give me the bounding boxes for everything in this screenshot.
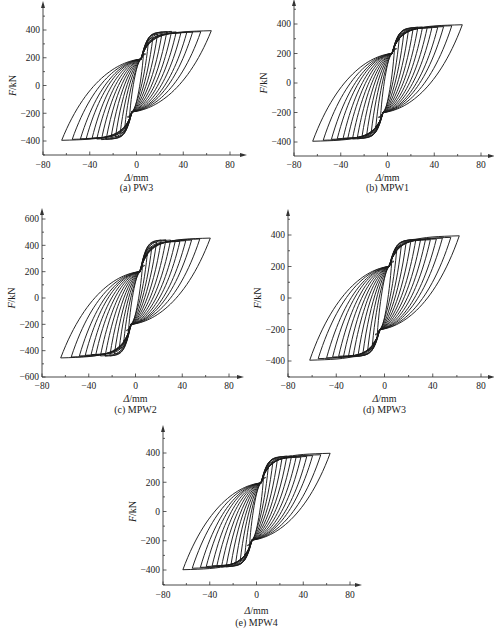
y-axis-unit: /kN	[252, 287, 263, 302]
y-axis-title: F/kN	[7, 75, 18, 97]
y-tick-label: 400	[271, 230, 286, 240]
x-tick-label: −40	[202, 590, 217, 600]
hysteresis-loop	[123, 255, 147, 342]
hysteresis-loop	[244, 468, 268, 556]
x-tick-label: 0	[254, 590, 259, 600]
y-tick-label: 0	[155, 507, 160, 517]
subplot-caption: (d) MPW3	[363, 404, 406, 416]
y-axis-arrow-icon	[40, 208, 44, 215]
y-tick-label: −400	[271, 137, 291, 147]
x-tick-label: 0	[382, 381, 387, 391]
hysteresis-figure: −80−4004080−400−2000200400Δ/mmF/kN(a) PW…	[0, 0, 494, 637]
x-tick-label: 80	[225, 160, 235, 170]
y-tick-label: −200	[271, 108, 291, 118]
y-tick-label: 200	[26, 53, 41, 63]
y-axis-arrow-icon	[286, 209, 290, 216]
hysteresis-loop	[333, 239, 437, 357]
y-axis-unit: /kN	[6, 287, 17, 302]
y-axis-unit: /kN	[258, 72, 269, 87]
x-axis-title: Δ/mm	[371, 393, 396, 404]
hysteresis-loop	[105, 240, 166, 356]
hysteresis-loop	[331, 27, 443, 140]
x-tick-label: 40	[299, 590, 309, 600]
subplot-caption: (b) MPW1	[366, 182, 409, 194]
y-tick-label: 0	[35, 81, 40, 91]
hysteresis-loop	[368, 245, 402, 351]
x-axis-unit: /mm	[250, 605, 269, 616]
y-tick-label: −200	[19, 320, 39, 330]
y-axis-arrow-icon	[41, 1, 45, 8]
hysteresis-loop	[357, 27, 418, 139]
hysteresis-loop	[358, 240, 411, 356]
subplot-e: −80−4004080−400−2000200400Δ/mmF/kN(e) MP…	[127, 425, 362, 629]
hysteresis-loop	[318, 237, 451, 358]
x-axis-arrow-icon	[355, 583, 362, 587]
hysteresis-loop	[375, 39, 399, 128]
x-tick-label: −40	[81, 381, 96, 391]
subplot-b: −80−4004080−400−2000200400Δ/mmF/kN(b) MP…	[258, 0, 494, 194]
hysteresis-loop	[343, 239, 425, 356]
hysteresis-loop	[352, 27, 422, 139]
y-axis-title: F/kN	[252, 287, 263, 309]
x-axis-arrow-icon	[240, 153, 247, 157]
hysteresis-loops	[310, 236, 460, 360]
x-tick-label: 0	[133, 381, 138, 391]
y-tick-label: 400	[277, 19, 292, 29]
hysteresis-loop	[61, 238, 211, 358]
y-tick-label: 0	[34, 293, 39, 303]
hysteresis-loop	[79, 240, 191, 356]
subplot-c: −80−4004080−600−400−2000200400600Δ/mmF/k…	[6, 208, 244, 416]
subplot-caption: (c) MPW2	[114, 404, 157, 416]
x-axis-title: Δ/mm	[122, 393, 147, 404]
y-axis-unit: /kN	[7, 75, 18, 90]
hysteresis-loop	[348, 28, 427, 139]
y-tick-label: −400	[265, 356, 285, 366]
x-tick-label: −40	[333, 160, 348, 170]
x-tick-label: 40	[179, 160, 189, 170]
hysteresis-loops	[61, 238, 211, 358]
hysteresis-loop	[327, 238, 443, 358]
subplot-a: −80−4004080−400−2000200400Δ/mmF/kN(a) PW…	[7, 1, 247, 194]
y-tick-label: −400	[20, 136, 40, 146]
hysteresis-loop	[353, 239, 416, 356]
hysteresis-loop	[323, 26, 452, 140]
x-tick-label: −80	[287, 160, 302, 170]
y-tick-label: 0	[286, 78, 291, 88]
x-tick-label: −80	[156, 590, 171, 600]
hysteresis-loop	[62, 31, 212, 141]
hysteresis-loop	[371, 33, 404, 133]
hysteresis-loop	[206, 457, 307, 567]
x-tick-label: 40	[428, 381, 438, 391]
y-axis-arrow-icon	[292, 0, 296, 6]
hysteresis-loop	[362, 28, 413, 138]
hysteresis-loops	[62, 31, 212, 141]
y-tick-label: 200	[271, 262, 286, 272]
x-tick-label: 40	[430, 160, 440, 170]
hysteresis-loop	[348, 239, 420, 357]
y-tick-label: 400	[26, 25, 41, 35]
y-tick-label: 200	[146, 478, 161, 488]
x-tick-label: 80	[345, 590, 355, 600]
hysteresis-loop	[313, 25, 463, 142]
y-tick-label: 400	[146, 448, 161, 458]
y-tick-label: −200	[265, 325, 285, 335]
hysteresis-loop	[120, 38, 153, 134]
x-axis-arrow-icon	[488, 375, 494, 379]
x-tick-label: −80	[35, 381, 50, 391]
hysteresis-loop	[372, 252, 397, 345]
y-tick-label: 200	[25, 267, 40, 277]
hysteresis-loop	[71, 239, 200, 357]
x-tick-label: −80	[36, 160, 51, 170]
y-tick-label: −600	[19, 372, 39, 382]
y-tick-label: 400	[25, 241, 40, 251]
x-axis-title: Δ/mm	[243, 605, 268, 616]
hysteresis-loop	[337, 27, 438, 139]
y-tick-label: −200	[140, 536, 160, 546]
hysteresis-loop	[124, 44, 148, 127]
hysteresis-loop	[192, 455, 321, 569]
y-tick-label: −200	[20, 109, 40, 119]
x-tick-label: 0	[385, 160, 390, 170]
x-tick-label: 80	[224, 381, 234, 391]
hysteresis-loop	[200, 456, 312, 568]
subplot-caption: (a) PW3	[120, 182, 154, 194]
